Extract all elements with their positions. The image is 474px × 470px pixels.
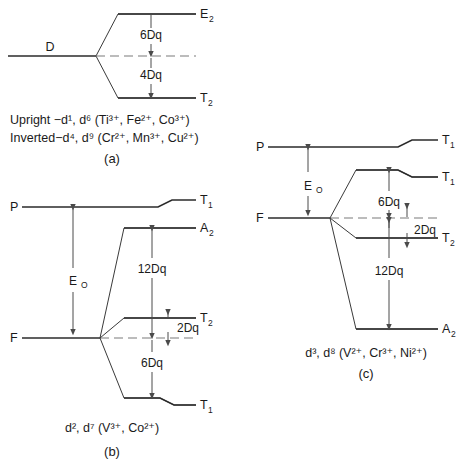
svg-text:E: E (69, 274, 77, 288)
panel-b-label-t2: T 2 (200, 311, 213, 328)
svg-text:2: 2 (208, 318, 213, 328)
panel-c-gap-eo: E O (304, 179, 323, 195)
panel-b-label-t1-bottom: T 1 (200, 398, 213, 415)
panel-b-term-F: F (10, 331, 18, 345)
panel-c-label-t2: T 2 (442, 231, 455, 248)
panel-c-term-F: F (256, 211, 264, 225)
svg-text:T: T (200, 311, 208, 325)
svg-text:O: O (81, 280, 88, 290)
svg-text:1: 1 (208, 200, 213, 210)
svg-text:E: E (304, 179, 312, 193)
panel-b-gap-6dq: 6Dq (141, 356, 163, 370)
panel-a-note-2: Inverted−d⁴, d⁹ (Cr²⁺, Mn³⁺, Cu²⁺) (10, 131, 199, 145)
panel-a-gap-6dq: 6Dq (140, 28, 162, 42)
panel-a-term-D: D (45, 40, 54, 54)
svg-text:T: T (200, 91, 208, 105)
svg-text:2: 2 (209, 14, 214, 24)
panel-c-label-a2: A 2 (442, 322, 456, 339)
panel-c-gap-6dq: 6Dq (378, 195, 400, 209)
svg-text:T: T (442, 133, 450, 147)
svg-text:1: 1 (450, 177, 455, 187)
svg-text:T: T (200, 398, 208, 412)
panel-c-gap-2dq: 2Dq (414, 223, 436, 237)
panel-b-configuration: d², d⁷ (V³⁺, Co²⁺) (65, 421, 159, 435)
panel-c-level-t1 (356, 170, 438, 177)
panel-b-label-a2: A 2 (200, 221, 214, 238)
panel-c-term-P: P (256, 140, 264, 154)
panel-b: P T 1 F E O 12Dq 2Dq (10, 193, 214, 459)
panel-b-gap-2dq: 2Dq (177, 321, 199, 335)
panel-a-label-t2: T 2 (200, 91, 213, 108)
panel-c-label-t1-top: T 1 (442, 133, 455, 150)
svg-text:T: T (442, 170, 450, 184)
svg-text:2: 2 (208, 98, 213, 108)
panel-b-label-t1-top: T 1 (200, 193, 213, 210)
svg-text:T: T (442, 231, 450, 245)
panel-a-label-e2: E 2 (200, 7, 214, 24)
svg-text:O: O (316, 185, 323, 195)
panel-b-level-p-t1 (22, 200, 196, 207)
panel-b-gap-12dq: 12Dq (138, 262, 167, 276)
svg-text:2: 2 (209, 228, 214, 238)
panel-a: D 6Dq 4Dq E 2 T 2 Upright −d¹, d⁶ (Ti³⁺,… (8, 7, 214, 166)
svg-text:1: 1 (450, 140, 455, 150)
panel-a-note-1: Upright −d¹, d⁶ (Ti³⁺, Fe²⁺, Co³⁺) (10, 113, 190, 127)
svg-text:2: 2 (450, 238, 455, 248)
panel-a-caption: (a) (104, 151, 120, 166)
panel-c-level-p-t1 (268, 140, 438, 147)
svg-text:T: T (200, 193, 208, 207)
svg-text:1: 1 (208, 405, 213, 415)
energy-level-figure: D 6Dq 4Dq E 2 T 2 Upright −d¹, d⁶ (Ti³⁺,… (0, 0, 474, 470)
svg-text:E: E (200, 7, 208, 21)
panel-c: P T 1 F E O 6Dq 2Dq (256, 133, 456, 381)
panel-c-gap-12dq: 12Dq (375, 264, 404, 278)
panel-b-caption: (b) (104, 444, 120, 459)
svg-text:2: 2 (451, 329, 456, 339)
panel-c-label-t1-mid: T 1 (442, 170, 455, 187)
svg-text:A: A (200, 221, 209, 235)
svg-text:A: A (442, 322, 451, 336)
panel-a-gap-4dq: 4Dq (140, 68, 162, 82)
panel-c-caption: (c) (358, 366, 373, 381)
figure-svg: D 6Dq 4Dq E 2 T 2 Upright −d¹, d⁶ (Ti³⁺,… (0, 0, 474, 470)
panel-b-branch-t1 (100, 338, 196, 405)
panel-b-level-t1-bottom (124, 398, 196, 405)
panel-c-configuration: d³, d⁸ (V²⁺, Cr³⁺, Ni²⁺) (305, 346, 427, 360)
panel-b-term-P: P (10, 200, 18, 214)
panel-b-gap-eo: E O (69, 274, 88, 290)
